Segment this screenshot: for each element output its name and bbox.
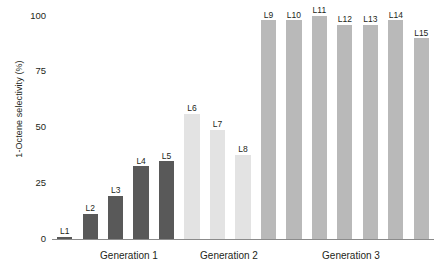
bar-l15: L15 [414, 38, 429, 239]
bar-label-l4: L4 [136, 157, 145, 166]
bar-l7: L7 [210, 130, 225, 239]
y-tick-75: 75 [16, 66, 46, 76]
bar-l5: L5 [159, 161, 174, 239]
group-label-generation-1: Generation 1 [74, 250, 184, 261]
bar-label-l5: L5 [162, 152, 171, 161]
bar-l11: L11 [312, 16, 327, 239]
bar-chart-figure: 1-Octene selectivity (%) 100 75 50 25 0 … [0, 0, 434, 279]
y-tick-100: 100 [16, 11, 46, 21]
bar-label-l8: L8 [238, 145, 247, 154]
bar-label-l2: L2 [85, 204, 94, 213]
y-tick-25: 25 [16, 178, 46, 188]
bar-l8: L8 [235, 155, 250, 239]
bar-l10: L10 [286, 20, 301, 239]
bar-label-l15: L15 [414, 29, 428, 38]
plot-area: L1L2L3L4L5L6L7L8L9L10L11L12L13L14L15 [52, 11, 434, 239]
bar-l4: L4 [133, 166, 148, 239]
bar-l9: L9 [261, 20, 276, 239]
bar-label-l7: L7 [213, 120, 222, 129]
group-label-generation-2: Generation 2 [183, 250, 275, 261]
bar-l2: L2 [83, 214, 98, 239]
bar-label-l3: L3 [111, 186, 120, 195]
bar-label-l13: L13 [363, 15, 377, 24]
bar-label-l1: L1 [60, 227, 69, 236]
bar-l12: L12 [337, 25, 352, 239]
bar-label-l9: L9 [264, 11, 273, 20]
y-tick-50: 50 [16, 122, 46, 132]
bar-label-l14: L14 [389, 11, 403, 20]
bar-l14: L14 [388, 20, 403, 239]
bar-label-l11: L11 [313, 6, 327, 15]
y-tick-0: 0 [16, 234, 46, 244]
bar-label-l10: L10 [287, 11, 301, 20]
y-axis-tick-labels: 100 75 50 25 0 [16, 0, 46, 279]
group-label-generation-3: Generation 3 [275, 250, 427, 261]
bar-l6: L6 [184, 114, 199, 239]
bar-label-l12: L12 [338, 15, 352, 24]
bar-l3: L3 [108, 196, 123, 239]
bar-l13: L13 [363, 25, 378, 239]
bar-label-l6: L6 [187, 104, 196, 113]
x-axis-line [52, 239, 434, 240]
